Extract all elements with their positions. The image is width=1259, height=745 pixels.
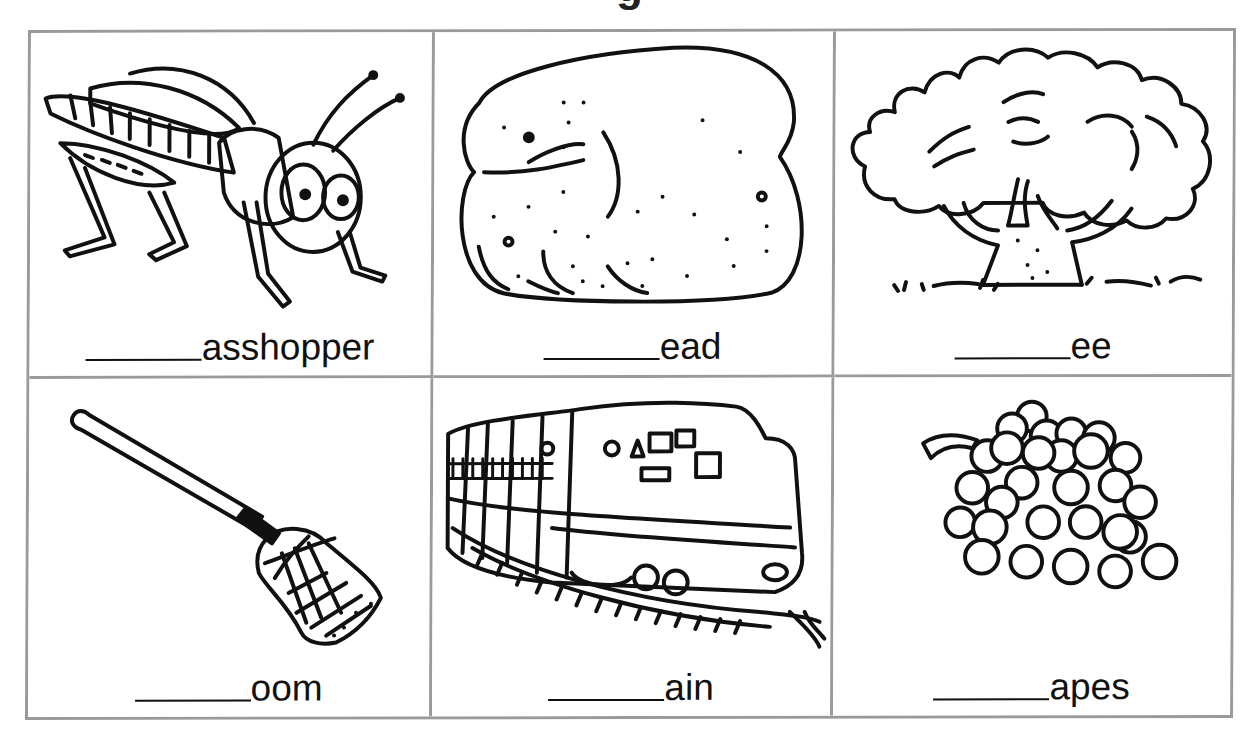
tree-icon <box>835 31 1233 312</box>
worksheet-title-fragment: g <box>0 0 1259 6</box>
card-grasshopper: asshopper <box>29 32 435 379</box>
bread-icon <box>434 32 833 313</box>
worksheet-grid: asshopper <box>25 28 1236 720</box>
card-tree: ee <box>834 31 1233 378</box>
fill-in-blank[interactable] <box>135 700 251 702</box>
word-ending: asshopper <box>202 327 375 367</box>
card-broom: oom <box>28 378 433 717</box>
card-bread: ead <box>433 32 836 379</box>
train-icon <box>432 378 831 659</box>
fill-in-blank[interactable] <box>544 358 660 360</box>
broom-icon <box>28 378 430 659</box>
word-row: apes <box>833 661 1230 708</box>
card-train: ain <box>432 378 834 717</box>
word-row: ain <box>432 662 830 709</box>
word-ending: ead <box>660 327 722 367</box>
word-ending: oom <box>251 668 323 708</box>
fill-in-blank[interactable] <box>86 359 202 361</box>
word-ending: apes <box>1049 667 1129 707</box>
fill-in-blank[interactable] <box>548 699 664 701</box>
word-ending: ain <box>664 668 714 708</box>
fill-in-blank[interactable] <box>933 698 1049 700</box>
fill-in-blank[interactable] <box>954 357 1070 359</box>
grasshopper-icon <box>30 32 432 313</box>
word-row: oom <box>28 662 429 709</box>
grapes-icon <box>833 377 1231 658</box>
card-grapes: apes <box>833 377 1231 716</box>
word-row: ead <box>434 321 832 368</box>
word-row: asshopper <box>30 321 431 368</box>
word-ending: ee <box>1070 326 1111 366</box>
word-row: ee <box>835 320 1232 367</box>
